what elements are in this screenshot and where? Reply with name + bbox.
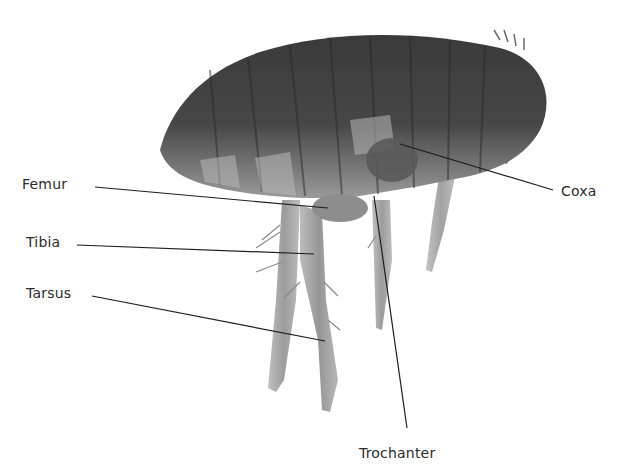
flea-anatomy-diagram: Femur Tibia Tarsus Coxa Trochanter xyxy=(0,0,625,472)
label-femur: Femur xyxy=(22,176,67,192)
flea-illustration xyxy=(0,0,625,472)
label-coxa: Coxa xyxy=(561,183,597,199)
label-tibia: Tibia xyxy=(26,234,60,250)
flea-body xyxy=(160,30,547,222)
tibia-leader-line xyxy=(77,245,314,254)
label-tarsus: Tarsus xyxy=(26,285,71,301)
label-trochanter: Trochanter xyxy=(359,445,435,461)
